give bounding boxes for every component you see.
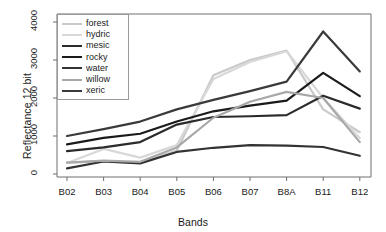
legend-swatch-hydric bbox=[62, 34, 82, 36]
y-axis-tick-label: 3000 bbox=[17, 53, 51, 64]
legend-label-water: water bbox=[86, 63, 108, 74]
legend-swatch-rocky bbox=[62, 56, 82, 58]
legend-item-hydric: hydric bbox=[60, 29, 125, 40]
legend-item-willow: willow bbox=[60, 74, 125, 85]
series-line-mesic bbox=[67, 96, 360, 151]
series-line-water bbox=[67, 145, 360, 168]
y-axis-tick-label: 2000 bbox=[17, 91, 51, 102]
legend-item-xeric: xeric bbox=[60, 85, 125, 96]
y-axis-tick-label: 1000 bbox=[17, 129, 51, 140]
legend-label-willow: willow bbox=[86, 74, 110, 85]
legend-swatch-water bbox=[62, 67, 82, 69]
legend-swatch-mesic bbox=[62, 45, 82, 47]
legend-item-water: water bbox=[60, 63, 125, 74]
legend-item-forest: forest bbox=[60, 18, 125, 29]
legend-item-mesic: mesic bbox=[60, 40, 125, 51]
legend-label-rocky: rocky bbox=[86, 52, 108, 63]
y-axis-tick-label: 0 bbox=[17, 167, 51, 178]
legend-item-rocky: rocky bbox=[60, 52, 125, 63]
legend-label-forest: forest bbox=[86, 18, 109, 29]
legend-swatch-xeric bbox=[62, 90, 82, 92]
legend-label-hydric: hydric bbox=[86, 29, 110, 40]
reflectance-line-chart: Reflectance 12 bit Bands 010002000300040… bbox=[0, 0, 386, 232]
x-axis-tick-label: B12 bbox=[338, 186, 382, 197]
x-axis-title: Bands bbox=[0, 216, 386, 228]
legend: foresthydricmesicrockywaterwillowxeric bbox=[57, 14, 129, 100]
legend-swatch-willow bbox=[62, 79, 82, 81]
legend-label-xeric: xeric bbox=[86, 85, 105, 96]
legend-swatch-forest bbox=[62, 23, 82, 25]
legend-label-mesic: mesic bbox=[86, 40, 110, 51]
y-axis-tick-label: 4000 bbox=[17, 15, 51, 26]
